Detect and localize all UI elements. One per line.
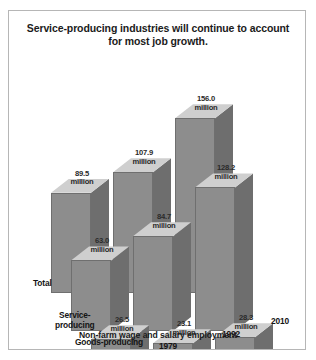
year-label-2010: 2010 [271,316,289,326]
bar-value-label: 84.7million [135,213,193,230]
bar-value-label: 156.0million [177,95,235,112]
row-label-service-producing: Service-producing [55,311,95,330]
year-label-1979: 1979 [159,341,177,349]
bar-front-face [195,187,235,331]
bar-value-label: 128.2million [197,164,255,181]
chart-caption: Non-farm wage and salary employment [26,330,290,340]
figure-root: Service-producing industries will contin… [0,0,316,360]
bar-value-label: 89.5million [53,170,111,187]
row-label-total: Total [33,279,52,289]
bar-value-label: 107.9million [115,149,173,166]
bar-side-face [173,222,191,331]
plot-area: 89.5million107.9million156.0million63.0m… [9,11,305,349]
bar-side-face [235,173,253,331]
bar-value-label: 63.0million [73,237,131,254]
